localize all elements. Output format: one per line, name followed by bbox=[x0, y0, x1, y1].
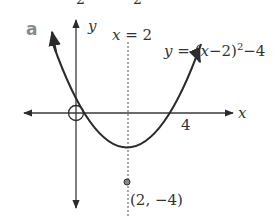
x-intercept-label: 4 bbox=[181, 116, 191, 134]
part-label: a bbox=[26, 19, 37, 39]
vertex-point bbox=[124, 179, 130, 185]
equation-label: y = (x−2)2−4 bbox=[163, 41, 265, 60]
vertex-label: (2, −4) bbox=[130, 191, 183, 209]
axis-of-symmetry-label: x = 2 bbox=[112, 26, 152, 44]
x-axis-label: x bbox=[238, 104, 247, 122]
y-axis-label: y bbox=[87, 17, 97, 35]
cropped-digit: 2 bbox=[76, 0, 85, 7]
cropped-digit: 2 bbox=[133, 0, 142, 7]
parabola-diagram: 2 2 a x y x = 2 y = (x−2)2−4 4 (2, −4) bbox=[0, 0, 275, 217]
